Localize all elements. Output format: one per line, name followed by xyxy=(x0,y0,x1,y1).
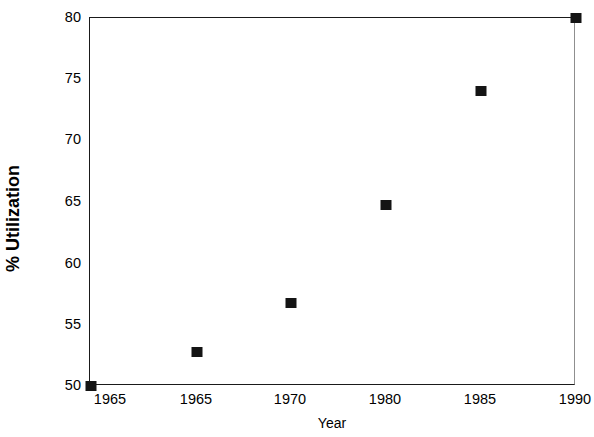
data-point xyxy=(381,200,392,210)
y-axis-tick-labels: 80 75 70 65 60 55 50 xyxy=(41,0,81,437)
data-point xyxy=(286,298,297,308)
x-tick-label: 1970 xyxy=(250,392,330,407)
data-point xyxy=(192,347,203,357)
y-axis-title-text: % Utilization xyxy=(3,165,24,272)
y-tick-label: 55 xyxy=(41,317,81,332)
data-point xyxy=(86,381,97,391)
y-tick-label: 50 xyxy=(41,378,81,393)
x-tick-label: 1980 xyxy=(345,392,425,407)
y-tick-label: 60 xyxy=(41,256,81,271)
x-tick-label: 1965 xyxy=(70,392,150,407)
y-tick-label: 80 xyxy=(41,10,81,25)
data-point xyxy=(571,13,582,23)
chart-figure: % Utilization 80 75 70 65 60 55 50 1965 … xyxy=(0,0,594,437)
plot-area xyxy=(89,17,575,385)
x-axis-tick-labels: 1965 1965 1970 1980 1985 1990 xyxy=(0,392,594,412)
x-tick-label: 1985 xyxy=(440,392,520,407)
y-tick-label: 70 xyxy=(41,132,81,147)
data-point xyxy=(476,86,487,96)
y-axis-title: % Utilization xyxy=(0,0,38,437)
x-tick-label: 1965 xyxy=(156,392,236,407)
x-axis-title: Year xyxy=(89,416,575,431)
y-tick-label: 65 xyxy=(41,194,81,209)
x-tick-label: 1990 xyxy=(535,392,594,407)
y-tick-label: 75 xyxy=(41,71,81,86)
